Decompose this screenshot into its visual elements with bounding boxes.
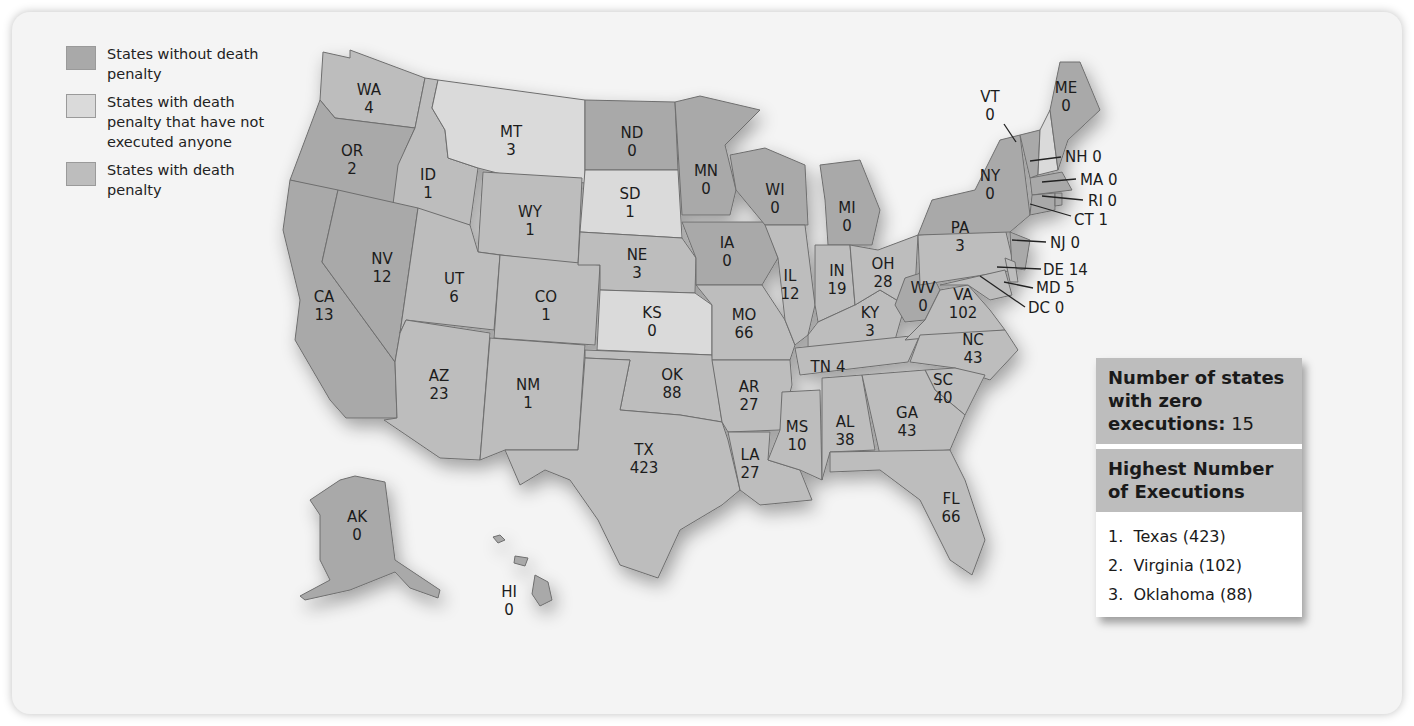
label-SC: SC40: [933, 371, 953, 407]
label-FL: FL66: [941, 490, 960, 526]
callout-DC: DC 0: [1028, 299, 1064, 317]
label-MO: MO66: [732, 306, 757, 342]
legend-label: States with death penalty: [107, 160, 286, 200]
callout-DE: DE 14: [1043, 261, 1088, 279]
rank-item: 3. Oklahoma (88): [1108, 580, 1290, 609]
rank-number: 3.: [1108, 585, 1123, 604]
label-LA: LA27: [740, 446, 760, 482]
label-CA: CA13: [314, 288, 335, 324]
legend-item-penalty-no-exec: States with death penalty that have not …: [66, 92, 286, 152]
state-HI-islands: [514, 556, 528, 566]
label-AL: AL38: [835, 413, 854, 449]
label-AR: AR27: [739, 378, 760, 414]
highest-executions-list: 1. Texas (423) 2. Virginia (102) 3. Okla…: [1096, 512, 1302, 617]
state-FL[interactable]: [830, 450, 985, 575]
state-AK[interactable]: [300, 476, 440, 600]
rank-text: Texas (423): [1133, 527, 1225, 546]
swatch-penalty-no-exec: [66, 94, 96, 118]
rank-number: 2.: [1108, 556, 1123, 575]
callout-MA: MA 0: [1080, 171, 1118, 189]
label-NC: NC43: [962, 331, 984, 367]
callout-MD: MD 5: [1036, 279, 1075, 297]
label-IN: IN19: [827, 262, 846, 298]
highest-executions-title: Highest Number of Executions: [1096, 449, 1302, 512]
state-HI[interactable]: [532, 575, 552, 606]
legend-item-penalty: States with death penalty: [66, 160, 286, 200]
state-HI-islands: [493, 535, 505, 543]
rank-item: 2. Virginia (102): [1108, 551, 1290, 580]
swatch-no-penalty: [66, 46, 96, 70]
label-OH: OH28: [871, 255, 894, 291]
label-OK: OK88: [661, 366, 684, 402]
highest-title-text: Highest Number of Executions: [1108, 458, 1273, 502]
legend-item-no-penalty: States without death penalty: [66, 44, 286, 84]
label-GA: GA43: [896, 404, 919, 440]
label-MS: MS10: [786, 418, 808, 454]
state-RI[interactable]: [1055, 193, 1062, 206]
label-AZ: AZ23: [429, 367, 450, 403]
rank-number: 1.: [1108, 527, 1123, 546]
rank-text: Virginia (102): [1133, 556, 1241, 575]
label-TN: TN4: [810, 358, 846, 376]
swatch-penalty: [66, 162, 96, 186]
legend-label: States with death penalty that have not …: [107, 92, 286, 152]
zero-executions-box: Number of states with zero executions: 1…: [1096, 358, 1302, 444]
label-VT: VT0: [980, 88, 1000, 124]
state-NY[interactable]: [918, 135, 1030, 235]
callout-RI: RI 0: [1088, 192, 1117, 210]
legend-label: States without death penalty: [107, 44, 286, 84]
summary-panel: Number of states with zero executions: 1…: [1096, 358, 1302, 617]
callout-NH: NH 0: [1065, 148, 1102, 166]
zero-executions-value: 15: [1231, 413, 1254, 434]
zero-executions-label: Number of states with zero executions:: [1108, 367, 1284, 434]
legend: States without death penalty States with…: [66, 44, 286, 208]
rank-item: 1. Texas (423): [1108, 522, 1290, 551]
label-HI: HI0: [501, 583, 517, 619]
callout-CT: CT 1: [1074, 211, 1108, 229]
callout-NJ: NJ 0: [1050, 234, 1080, 252]
rank-text: Oklahoma (88): [1133, 585, 1252, 604]
label-NV: NV12: [371, 250, 393, 286]
